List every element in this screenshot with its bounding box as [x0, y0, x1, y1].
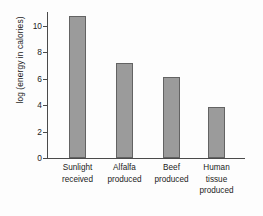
bar-chart-figure: log (energy in calories) 0 2 4 6 8 10 Su… — [0, 0, 263, 216]
x-category-label-line: Human — [186, 162, 248, 174]
x-category-label-line: tissue — [186, 174, 248, 186]
y-tick-label-2: 2 — [22, 128, 42, 136]
bar-human-tissue-produced — [208, 107, 225, 158]
y-tick-label-10: 10 — [22, 22, 42, 30]
plot-area: 0 2 4 6 8 10 Sunlightreceived Alfalfapro… — [0, 0, 263, 216]
y-tick-mark-0 — [43, 158, 48, 159]
y-tick-label-4: 4 — [22, 101, 42, 109]
bar-sunlight-received — [69, 16, 86, 158]
y-tick-mark-6 — [43, 79, 48, 80]
y-tick-mark-8 — [43, 52, 48, 53]
x-category-label-line: produced — [186, 185, 248, 197]
bar-alfalfa-produced — [116, 63, 133, 158]
y-tick-label-6: 6 — [22, 75, 42, 83]
y-tick-mark-4 — [43, 105, 48, 106]
bar-beef-produced — [163, 77, 180, 158]
y-tick-label-0: 0 — [22, 154, 42, 162]
y-axis-line — [47, 12, 48, 159]
x-category-label-human-tissue-produced: Humantissueproduced — [186, 162, 248, 197]
y-tick-mark-2 — [43, 132, 48, 133]
y-tick-mark-10 — [43, 26, 48, 27]
x-axis-line — [47, 158, 245, 159]
y-tick-label-8: 8 — [22, 48, 42, 56]
